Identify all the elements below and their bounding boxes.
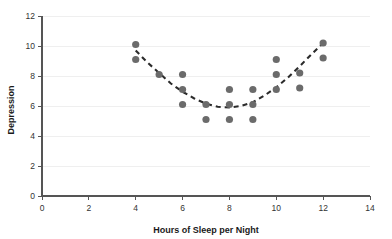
y-tick-label: 10 [26,41,36,51]
data-point [179,101,186,108]
data-point [273,86,280,93]
data-point [249,101,256,108]
y-tick-label: 6 [30,101,35,111]
trendline [136,43,323,108]
data-point [273,56,280,63]
scatter-chart: 024681012 02468101214 Hours of Sleep per… [0,0,392,239]
x-tick-label: 2 [86,203,91,213]
x-tick-label: 8 [227,203,232,213]
data-point [202,116,209,123]
x-tick-label: 12 [318,203,328,213]
y-tick-label: 4 [30,131,35,141]
data-point [226,101,233,108]
data-point [249,116,256,123]
data-point [320,54,327,61]
data-point [226,86,233,93]
data-point [320,39,327,46]
x-tick-label: 6 [180,203,185,213]
y-tick-label: 0 [30,191,35,201]
y-tick-label: 12 [26,11,36,21]
x-tick-label: 0 [40,203,45,213]
data-point [296,84,303,91]
data-point [132,56,139,63]
data-point [156,71,163,78]
x-axis [42,196,370,200]
chart-canvas: 024681012 02468101214 Hours of Sleep per… [0,0,392,239]
y-axis [38,16,42,196]
data-point [179,71,186,78]
data-point [179,86,186,93]
data-point [249,86,256,93]
x-tick-label: 10 [272,203,282,213]
data-point [202,101,209,108]
y-tick-labels: 024681012 [26,11,36,201]
data-point [273,71,280,78]
data-points [132,39,327,123]
data-point [226,116,233,123]
data-point [132,41,139,48]
data-point [296,69,303,76]
x-axis-title: Hours of Sleep per Night [153,225,259,235]
x-tick-labels: 02468101214 [40,203,375,213]
y-tick-label: 8 [30,71,35,81]
x-tick-label: 14 [365,203,375,213]
y-axis-title: Depression [6,85,16,134]
gridlines [42,16,370,166]
y-tick-label: 2 [30,161,35,171]
x-tick-label: 4 [133,203,138,213]
